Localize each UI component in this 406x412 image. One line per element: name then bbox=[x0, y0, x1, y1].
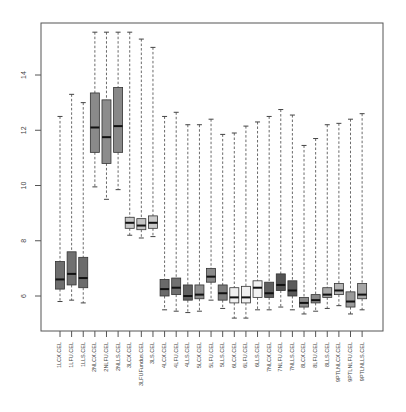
x-tick-label: 9PTLNLFU.CEL bbox=[347, 342, 353, 382]
x-tick-label: 6LCX.CEL bbox=[231, 342, 237, 368]
box-2NLFU.CEL bbox=[102, 32, 111, 199]
x-tick-label: 3LFUFundus.CEL bbox=[138, 342, 144, 386]
box-2NLCX.CEL bbox=[90, 32, 99, 187]
x-tick-label: 7NLCX.CEL bbox=[266, 342, 272, 372]
x-tick-label: 7NLLS.CEL bbox=[289, 342, 295, 371]
x-tick-label: 9PTLNLCX.CEL bbox=[335, 342, 341, 382]
box-7NLFU.CEL bbox=[276, 110, 285, 308]
x-tick-label: 2NLCX.CEL bbox=[91, 342, 97, 372]
box-9PTLNLFU.CEL bbox=[346, 119, 355, 314]
iqr-box bbox=[253, 281, 262, 298]
iqr-box bbox=[346, 292, 355, 307]
iqr-box bbox=[172, 278, 181, 295]
box-2NLLS.CEL bbox=[114, 32, 123, 189]
box-1LFU.CEL bbox=[67, 94, 76, 300]
iqr-box bbox=[195, 285, 204, 299]
box-7NLLS.CEL bbox=[288, 115, 297, 310]
box-4LLS.CEL bbox=[183, 125, 192, 313]
iqr-box bbox=[90, 93, 99, 152]
box-5LFU.CEL bbox=[207, 119, 216, 300]
iqr-box bbox=[183, 285, 192, 300]
y-tick-label: 8 bbox=[20, 239, 27, 243]
plot-frame bbox=[41, 23, 383, 331]
x-tick-label: 1LCX.CEL bbox=[56, 342, 62, 368]
iqr-box bbox=[265, 282, 274, 297]
y-tick-label: 6 bbox=[20, 294, 27, 298]
box-8LFU.CEL bbox=[311, 139, 320, 312]
box-7NLCX.CEL bbox=[265, 116, 274, 309]
box-5LCX.CEL bbox=[195, 125, 204, 311]
x-tick-label: 8LLS.CEL bbox=[324, 342, 330, 367]
box-6LCX.CEL bbox=[230, 133, 239, 318]
iqr-box bbox=[323, 288, 332, 298]
iqr-box bbox=[334, 284, 343, 295]
box-3LFUFundus.CEL bbox=[137, 39, 146, 238]
y-tick-label: 12 bbox=[20, 126, 27, 134]
iqr-box bbox=[160, 279, 169, 296]
boxes-group bbox=[56, 32, 367, 318]
x-tick-label: 1LFU.CEL bbox=[68, 342, 74, 368]
iqr-box bbox=[114, 87, 123, 152]
x-tick-label: 5LFU.CEL bbox=[208, 342, 214, 368]
box-9PTLNLLS.CEL bbox=[358, 114, 367, 310]
box-4LCX.CEL bbox=[160, 116, 169, 309]
box-1LCX.CEL bbox=[56, 116, 65, 301]
boxplot-chart: 68101214 1LCX.CEL1LFU.CEL1LLS.CEL2NLCX.C… bbox=[0, 0, 406, 412]
iqr-box bbox=[241, 286, 250, 303]
x-tick-label: 5LLS.CEL bbox=[219, 342, 225, 367]
x-tick-label: 4LFU.CEL bbox=[173, 342, 179, 368]
box-6LFU.CEL bbox=[241, 126, 250, 318]
x-tick-label: 6LLS.CEL bbox=[254, 342, 260, 367]
box-6LLS.CEL bbox=[253, 122, 262, 310]
x-tick-label: 3LCX.CEL bbox=[126, 342, 132, 368]
x-tick-label: 6LFU.CEL bbox=[242, 342, 248, 368]
x-tick-label: 4LCX.CEL bbox=[161, 342, 167, 368]
iqr-box bbox=[137, 219, 146, 230]
box-3LS.CEL bbox=[148, 47, 157, 236]
x-tick-label: 2NLFU.CEL bbox=[103, 342, 109, 372]
iqr-box bbox=[358, 284, 367, 299]
box-9PTLNLCX.CEL bbox=[334, 123, 343, 305]
iqr-box bbox=[230, 288, 239, 303]
x-tick-label: 7NLFU.CEL bbox=[277, 342, 283, 372]
iqr-box bbox=[288, 281, 297, 296]
x-tick-label: 8LCX.CEL bbox=[300, 342, 306, 368]
iqr-box bbox=[207, 268, 216, 282]
box-3LCX.CEL bbox=[125, 32, 134, 235]
iqr-box bbox=[56, 261, 65, 289]
iqr-box bbox=[79, 257, 88, 287]
iqr-box bbox=[102, 100, 111, 164]
x-axis: 1LCX.CEL1LFU.CEL1LLS.CEL2NLCX.CEL2NLFU.C… bbox=[56, 331, 364, 386]
x-tick-label: 1LLS.CEL bbox=[80, 342, 86, 367]
iqr-box bbox=[67, 252, 76, 285]
box-5LLS.CEL bbox=[218, 134, 227, 308]
y-tick-label: 10 bbox=[20, 182, 27, 190]
x-tick-label: 4LLS.CEL bbox=[184, 342, 190, 367]
x-tick-label: 3LS.CEL bbox=[149, 342, 155, 364]
iqr-box bbox=[311, 295, 320, 303]
x-tick-label: 5LCX.CEL bbox=[196, 342, 202, 368]
x-tick-label: 9PTLNLLS.CEL bbox=[359, 342, 365, 381]
iqr-box bbox=[276, 274, 285, 291]
x-tick-label: 2NLLS.CEL bbox=[115, 342, 121, 371]
box-8LCX.CEL bbox=[300, 145, 309, 314]
box-8LLS.CEL bbox=[323, 125, 332, 309]
box-1LLS.CEL bbox=[79, 103, 88, 303]
y-tick-label: 14 bbox=[20, 71, 27, 79]
x-tick-label: 8LFU.CEL bbox=[312, 342, 318, 368]
y-axis: 68101214 bbox=[20, 71, 41, 298]
box-4LFU.CEL bbox=[172, 112, 181, 311]
